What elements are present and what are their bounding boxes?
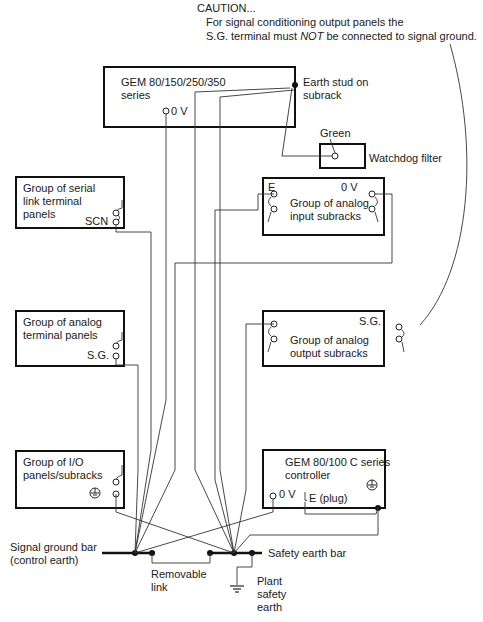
gem-series-box: GEM 80/150/250/350 series 0 V <box>104 67 298 127</box>
controller-e-plug-label: E (plug) <box>309 492 348 504</box>
analog-terminal-panels-box: Group of analog terminal panels S.G. <box>16 311 124 366</box>
serial-link-title-2: link terminal <box>23 195 82 207</box>
removable-link-label: Removable <box>151 568 207 580</box>
terminal-0v-label: 0 V <box>341 181 358 193</box>
removable-link-label-2: link <box>151 581 168 593</box>
plant-safety-earth-label: Plant <box>257 575 282 587</box>
watchdog-filter-box: Green Watchdog filter <box>320 127 442 168</box>
controller-title: GEM 80/100 C series <box>285 456 391 468</box>
sg-label-output: S.G. <box>359 315 381 327</box>
earth-stud-label-2: subrack <box>303 89 342 101</box>
plant-safety-earth-label-3: earth <box>257 601 282 613</box>
analog-input-title-2: input subracks <box>290 210 361 222</box>
signal-ground-wires <box>116 114 273 553</box>
analog-terminal-title-2: terminal panels <box>23 329 98 341</box>
removable-link <box>152 553 210 563</box>
watchdog-terminal-icon <box>332 153 338 159</box>
io-panels-title: Group of I/O <box>23 456 84 468</box>
analog-input-title: Group of analog <box>290 197 369 209</box>
protective-earth-icon <box>367 480 377 490</box>
serial-link-title-3: panels <box>23 208 56 220</box>
watchdog-filter-label: Watchdog filter <box>369 152 442 164</box>
caution-leader-line <box>420 44 467 325</box>
io-panels-title-2: panels/subracks <box>23 469 103 481</box>
safety-earth-bar-label: Safety earth bar <box>268 547 347 559</box>
safety-earth-wires <box>116 88 392 553</box>
controller-box: GEM 80/100 C series controller 0 V E (pl… <box>263 450 391 511</box>
controller-title-2: controller <box>285 469 331 481</box>
io-panels-box: Group of I/O panels/subracks <box>16 451 124 508</box>
caution-line-2: S.G. terminal must NOT be connected to s… <box>206 30 477 42</box>
gem-series-title: GEM 80/150/250/350 <box>121 76 226 88</box>
terminal-0v-icon <box>163 108 169 114</box>
analog-output-title: Group of analog <box>290 334 369 346</box>
plant-safety-earth-label-2: safety <box>257 588 287 600</box>
earthing-diagram: CAUTION... For signal conditioning outpu… <box>0 0 483 622</box>
signal-ground-bar <box>102 550 155 556</box>
signal-ground-bar-label: Signal ground bar <box>10 541 97 553</box>
analog-output-title-2: output subracks <box>290 347 368 359</box>
caution-title: CAUTION... <box>197 2 256 14</box>
analog-terminal-title: Group of analog <box>23 316 102 328</box>
scn-label: SCN <box>85 215 108 227</box>
caution-line-1: For signal conditioning output panels th… <box>206 16 404 28</box>
sg-label: S.G. <box>87 349 109 361</box>
earth-stud-icon <box>292 82 298 88</box>
gem-series-0v-label: 0 V <box>171 105 188 117</box>
serial-link-panels-box: Group of serial link terminal panels SCN <box>16 177 124 228</box>
green-label: Green <box>320 127 351 139</box>
serial-link-title: Group of serial <box>23 182 95 194</box>
analog-input-subracks-box: E 0 V Group of analog input subracks <box>263 178 384 235</box>
gem-series-subtitle: series <box>121 89 151 101</box>
earth-stud-label: Earth stud on <box>303 76 368 88</box>
analog-output-subracks-box: S.G. Group of analog output subracks <box>263 311 404 366</box>
caution-note: CAUTION... For signal conditioning outpu… <box>197 2 477 42</box>
ground-symbol-icon <box>230 586 244 592</box>
signal-ground-bar-label-2: (control earth) <box>10 554 78 566</box>
protective-earth-icon <box>90 488 100 498</box>
controller-0v-label: 0 V <box>279 488 296 500</box>
